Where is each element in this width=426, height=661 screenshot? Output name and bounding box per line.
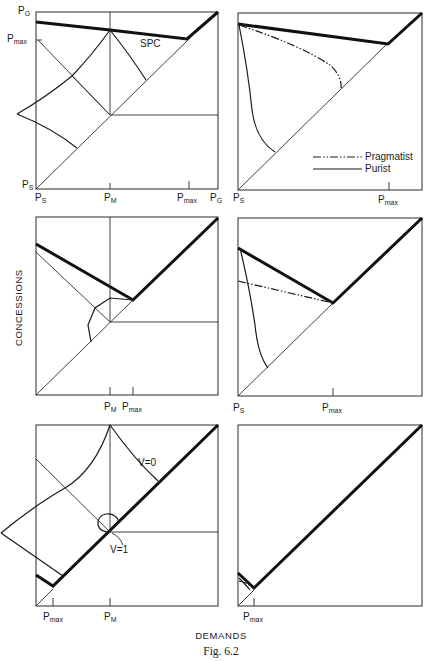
panel-5-spc-line bbox=[36, 425, 218, 586]
legend-purist-label: Purist bbox=[365, 163, 391, 174]
panel-3: PM Pmax bbox=[36, 217, 218, 413]
panel-3-pm-xlabel: PM bbox=[104, 401, 117, 413]
panel-2-ps-xlabel: PS bbox=[233, 192, 245, 204]
panel-3-diagonal bbox=[36, 300, 133, 395]
panel-3-pmax-line bbox=[36, 252, 110, 322]
panel-4-pragmatist-line bbox=[238, 281, 333, 303]
panel-5-left-lower-line bbox=[1, 533, 63, 576]
panel-2-spc-line bbox=[238, 13, 422, 44]
panel-5-pm-xlabel: PM bbox=[104, 611, 117, 623]
x-axis-title: DEMANDS bbox=[195, 630, 247, 641]
panel-1-inner-line bbox=[72, 76, 110, 115]
panel-6-diagonal bbox=[238, 590, 254, 606]
panel-5-diagonal bbox=[36, 589, 53, 606]
panel-6: Pmax bbox=[238, 425, 422, 623]
panel-4-purist-curve bbox=[240, 248, 268, 368]
legend-pragmatist-label: Pragmatist bbox=[365, 151, 413, 162]
panel-2-legend: Pragmatist Purist bbox=[313, 151, 413, 174]
panel-2: Pragmatist Purist PS Pmax bbox=[233, 13, 422, 206]
panel-3-pmax-xlabel: Pmax bbox=[122, 401, 142, 413]
panel-6-spc-line bbox=[238, 425, 422, 588]
panel-4-pmax-xlabel: Pmax bbox=[322, 402, 342, 414]
figure-6-2: PG Pmax PS PS PM Pmax PG SPC Pragmatist … bbox=[0, 0, 426, 661]
panel-1-ps-xlabel: PS bbox=[35, 192, 47, 204]
panel-3-curve bbox=[88, 298, 133, 342]
panel-5-pmax-line bbox=[36, 459, 110, 532]
panel-4-diagonal bbox=[238, 303, 333, 396]
panel-1-diagonal bbox=[36, 38, 190, 189]
panel-2-purist-curve bbox=[239, 25, 275, 152]
panel-5-pmax-xlabel: Pmax bbox=[43, 611, 63, 623]
panel-1-spc-label: SPC bbox=[140, 38, 161, 49]
panel-1-pmax-ylabel: Pmax bbox=[7, 33, 27, 45]
panel-5-left-upper-curve bbox=[1, 425, 110, 533]
panel-5-v0-curve bbox=[110, 425, 158, 481]
panel-1-left-lower-curve bbox=[17, 114, 77, 148]
panel-1-pg-ylabel: PG bbox=[18, 5, 30, 17]
panel-6-pmax-xlabel: Pmax bbox=[243, 611, 263, 623]
panel-1-left-upper-curve bbox=[17, 30, 110, 114]
panel-3-spc-line bbox=[36, 218, 218, 300]
panel-5-v1-label: V=1 bbox=[110, 544, 129, 555]
panel-1: PG Pmax PS PS PM Pmax PG SPC bbox=[7, 5, 222, 204]
panel-1-pmax-xlabel: Pmax bbox=[177, 192, 197, 204]
panel-4-ps-xlabel: PS bbox=[233, 402, 245, 414]
panel-1-spc-line bbox=[36, 12, 218, 39]
figure-caption: Fig. 6.2 bbox=[203, 645, 239, 658]
panel-5-v0-label: V=0 bbox=[138, 457, 157, 468]
y-axis-title: CONCESSIONS bbox=[13, 269, 24, 346]
panel-1-pg-xlabel: PG bbox=[210, 192, 222, 204]
panel-2-pmax-xlabel: Pmax bbox=[378, 194, 398, 206]
panel-1-ps-ylabel: PS bbox=[22, 179, 34, 191]
panel-5: V=0 V=1 Pmax PM bbox=[1, 425, 218, 623]
panel-1-pm-xlabel: PM bbox=[104, 192, 117, 204]
panel-4: PS Pmax bbox=[233, 218, 422, 414]
panel-4-spc-line bbox=[238, 218, 422, 303]
